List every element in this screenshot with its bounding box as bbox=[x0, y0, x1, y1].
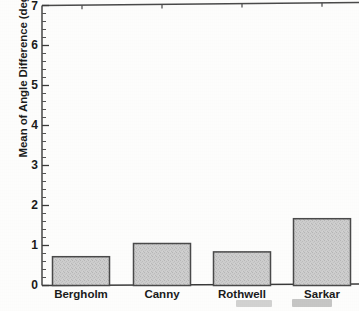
x-tick-label-canny: Canny bbox=[144, 288, 179, 300]
x-tick-label-sarkar: Sarkar bbox=[304, 288, 340, 300]
bar-series bbox=[53, 219, 351, 286]
plot-area bbox=[0, 0, 359, 311]
y-tick-label-3: 3 bbox=[16, 159, 38, 171]
y-tick-label-1: 1 bbox=[16, 239, 38, 251]
y-tick-label-2: 2 bbox=[16, 199, 38, 211]
bar-canny bbox=[134, 244, 191, 286]
y-tick-label-4: 4 bbox=[16, 119, 38, 131]
plot-frame-top bbox=[42, 3, 359, 10]
y-tick-label-5: 5 bbox=[16, 79, 38, 91]
bar-rothwell bbox=[214, 252, 271, 286]
x-tick-label-rothwell: Rothwell bbox=[218, 288, 266, 300]
y-axis-tick-labels: 0 1 2 3 4 5 6 7 bbox=[12, 0, 38, 311]
bar-bergholm bbox=[53, 257, 110, 286]
y-tick-label-7: 7 bbox=[16, 0, 38, 12]
y-tick-label-6: 6 bbox=[16, 39, 38, 51]
y-axis-major-ticks bbox=[42, 6, 49, 286]
figure-bar-chart-angle-difference: Mean of Angle Difference (degree) 0 1 2 … bbox=[0, 0, 359, 311]
y-tick-label-0: 0 bbox=[16, 279, 38, 291]
scan-artifact-right bbox=[292, 299, 332, 307]
x-tick-label-bergholm: Bergholm bbox=[54, 288, 108, 300]
scan-artifact-left bbox=[236, 300, 272, 307]
bar-sarkar bbox=[294, 219, 351, 286]
